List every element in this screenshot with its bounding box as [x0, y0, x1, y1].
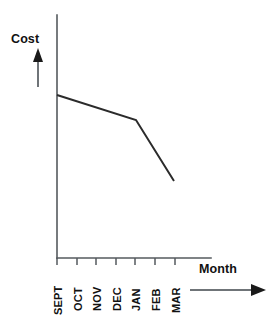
cost-month-chart: Cost Month SEPT OCT NOV DEC JAN FEB MAR — [0, 0, 276, 325]
x-tick-label-sept: SEPT — [52, 285, 64, 315]
y-axis-title: Cost — [11, 32, 40, 46]
x-tick-label-oct: OCT — [72, 287, 84, 311]
up-arrow-icon — [33, 48, 43, 62]
x-axis-title: Month — [199, 262, 237, 276]
x-tick-label-feb: FEB — [150, 288, 162, 311]
cost-trend-line — [57, 95, 174, 181]
x-tick-label-mar: MAR — [170, 287, 182, 313]
x-tick-label-dec: DEC — [111, 287, 123, 311]
x-tick-label-jan: JAN — [130, 288, 142, 311]
right-arrow-icon — [251, 284, 266, 296]
chart-canvas: Cost Month SEPT OCT NOV DEC JAN FEB MAR — [0, 0, 276, 325]
x-tick-label-nov: NOV — [91, 286, 103, 311]
